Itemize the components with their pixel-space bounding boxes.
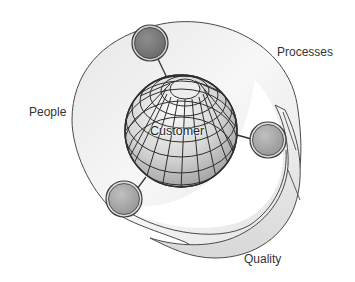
node-right: [250, 122, 286, 158]
label-people: People: [29, 105, 66, 119]
label-quality: Quality: [244, 252, 281, 266]
label-processes: Processes: [277, 45, 333, 59]
node-top: [132, 25, 168, 61]
node-bottom-left: [106, 181, 142, 217]
customer-diagram: [0, 0, 355, 282]
label-customer: Customer: [150, 124, 204, 138]
